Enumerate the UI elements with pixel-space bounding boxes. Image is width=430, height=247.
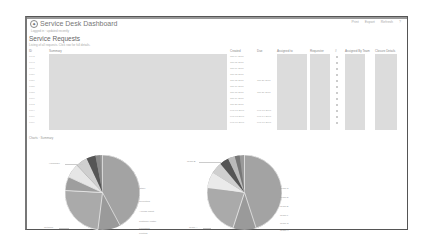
refresh-link[interactable]: Refresh (381, 20, 393, 24)
row-due: Feb 14 2017 (257, 115, 271, 118)
pie2-label-team-h: Team H (280, 229, 289, 232)
row-due: Feb 16 2017 (257, 121, 271, 124)
row-id: 1066 (29, 115, 37, 117)
column-header-requester[interactable]: Requester (310, 49, 324, 53)
pie2-label-team-e: Team E (280, 205, 288, 208)
top-border (27, 17, 407, 19)
row-due: Feb 10 2017 (257, 109, 271, 112)
status-dot-icon (336, 98, 338, 100)
status-dot-icon (336, 110, 338, 112)
row-created: Jan 19 2017 (230, 97, 244, 100)
pie-chart-category (65, 155, 140, 230)
pie1-leader (65, 164, 83, 165)
requester-column-redacted (310, 54, 330, 130)
status-dot-icon (336, 56, 338, 58)
row-id: 1050 (29, 73, 37, 75)
pie1-label-other: Other (139, 187, 145, 190)
pie1-leader (59, 228, 69, 229)
pie2-label-team-a: Team A (189, 226, 197, 229)
pie2-leader (203, 228, 211, 229)
column-header-closure-details[interactable]: Closure Details (375, 49, 395, 53)
column-header-summary[interactable]: Summary (49, 49, 62, 53)
pie2-label-team-f: Team F (280, 214, 288, 217)
app-window: ✦ Service Desk Dashboard Logged in · upd… (25, 16, 408, 230)
status-dot-icon (336, 92, 338, 94)
row-created: Jan 12 2017 (230, 73, 244, 76)
help-link[interactable]: ? (399, 20, 401, 24)
row-created: Jan 05 2017 (230, 61, 244, 64)
column-header-assigned-by-team[interactable]: Assigned By Team (345, 49, 370, 53)
pie1-label-network: Network (44, 226, 53, 229)
summary-column-redacted (49, 54, 227, 130)
page-description: Listing of all requests. Click row for f… (29, 43, 90, 47)
row-created: Jan 09 2017 (230, 67, 244, 70)
row-created: Feb 01 2017 (230, 109, 244, 112)
row-id: 1058 (29, 91, 37, 93)
pie1-label-licensing: Licensing (139, 227, 150, 230)
status-dot-icon (336, 116, 338, 118)
row-created: Jan 23 2017 (230, 103, 244, 106)
pie2-label-team-c: Team C (280, 187, 289, 190)
pie1-label-printing: Printing (139, 232, 147, 235)
row-due: Jan 27 2017 (257, 91, 271, 94)
status-dot-icon (336, 74, 338, 76)
status-dot-icon (336, 62, 338, 64)
assigned-to-column-redacted (277, 54, 307, 130)
pie2-label-team-g: Team G (280, 222, 289, 225)
row-created: Jan 04 2017 (230, 55, 244, 58)
app-logo-icon: ✦ (30, 20, 38, 28)
column-header-created[interactable]: Created (230, 49, 241, 53)
pie2-label-team-d: Team D (280, 196, 289, 199)
row-id: 1047 (29, 67, 37, 69)
app-subtitle: Logged in · updated recently (31, 29, 69, 33)
assigned-by-team-column-redacted (345, 54, 365, 130)
status-dot-icon (336, 122, 338, 124)
pie1-label-reporting: Reporting (139, 200, 150, 203)
status-dot-icon (336, 104, 338, 106)
column-header-id[interactable]: ID (29, 49, 32, 53)
row-id: 1060 (29, 97, 37, 99)
column-header-due[interactable]: Due (257, 49, 263, 53)
row-created: Feb 03 2017 (230, 115, 244, 118)
pie1-label-hardware: Hardware (49, 162, 60, 165)
row-created: Jan 18 2017 (230, 91, 244, 94)
row-id: 1069 (29, 121, 37, 123)
row-id: 1064 (29, 109, 37, 111)
pie-chart-team (207, 155, 282, 230)
export-link[interactable]: Export (365, 20, 375, 24)
status-dot-icon (336, 86, 338, 88)
row-created: Jan 16 2017 (230, 85, 244, 88)
charts-section-title: Charts · Summary (29, 136, 53, 140)
header-links: Print Export Refresh ? (347, 20, 402, 24)
row-id: 1051 (29, 79, 37, 81)
status-dot-icon (336, 68, 338, 70)
row-due: Jan 20 2017 (257, 79, 271, 82)
row-id: 1062 (29, 103, 37, 105)
status-dot-icon (336, 80, 338, 82)
row-id: 1055 (29, 85, 37, 87)
row-id: 1043 (29, 61, 37, 63)
closure-details-column-redacted (375, 54, 397, 130)
row-id: 1042 (29, 55, 37, 57)
page-title: Service Requests (29, 35, 80, 42)
pie2-label-team-b: Team B (187, 160, 195, 163)
print-link[interactable]: Print (352, 20, 359, 24)
column-header-assigned-to[interactable]: Assigned to (277, 49, 293, 53)
row-created: Jan 12 2017 (230, 79, 244, 82)
pie2-leader (199, 162, 221, 163)
pie1-label-software: Software Install (139, 220, 156, 223)
pie1-label-access: Access Mgmt (139, 210, 154, 213)
row-created: Feb 06 2017 (230, 121, 244, 124)
column-header-count[interactable]: # (335, 49, 337, 53)
app-title: Service Desk Dashboard (40, 20, 117, 27)
